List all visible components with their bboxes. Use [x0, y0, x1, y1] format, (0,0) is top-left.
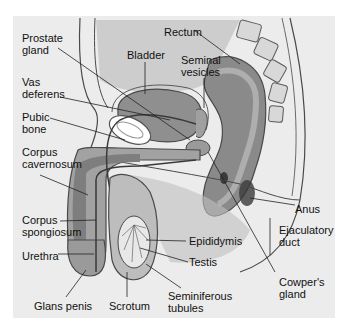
label-vas-deferens: Vas deferens	[22, 76, 65, 100]
label-glans-penis: Glans penis	[34, 300, 92, 312]
label-line: Corpus	[22, 214, 81, 226]
label-bladder: Bladder	[127, 49, 165, 61]
label-line: cavernosum	[22, 158, 82, 170]
label-line: Seminiferous	[168, 290, 232, 302]
glans	[68, 240, 106, 276]
label-line: Testis	[189, 256, 217, 268]
label-line: Vas	[22, 76, 65, 88]
label-corpus-spongiosum: Corpus spongiosum	[22, 214, 81, 238]
anal-sphincter	[239, 180, 255, 206]
label-line: Corpus	[22, 146, 82, 158]
label-ejaculatory-duct: Ejaculatory duct	[279, 224, 333, 248]
label-line: Epididymis	[189, 235, 242, 247]
label-anus: Anus	[295, 203, 320, 215]
cowpers-gland-shape	[220, 172, 228, 184]
label-line: Glans penis	[34, 300, 92, 312]
label-line: deferens	[22, 88, 65, 100]
label-line: Scrotum	[109, 300, 150, 312]
label-line: Cowper's	[279, 276, 325, 288]
label-line: gland	[279, 288, 325, 300]
label-seminiferous-tubules: Seminiferous tubules	[168, 290, 232, 314]
label-line: Anus	[295, 203, 320, 215]
label-line: Prostate	[22, 32, 63, 44]
label-line: Pubic	[22, 111, 50, 123]
label-line: Urethra	[22, 250, 59, 262]
testis-shape	[118, 216, 150, 268]
label-prostate-gland: Prostate gland	[22, 32, 63, 56]
label-pubic-bone: Pubic bone	[22, 111, 50, 135]
label-line: vesicles	[181, 66, 221, 78]
label-epididymis: Epididymis	[189, 235, 242, 247]
label-cowpers-gland: Cowper's gland	[279, 276, 325, 300]
label-seminal-vesicles: Seminal vesicles	[181, 54, 221, 78]
label-line: Ejaculatory	[279, 224, 333, 236]
label-line: tubules	[168, 302, 232, 314]
label-urethra: Urethra	[22, 250, 59, 262]
label-rectum: Rectum	[164, 26, 202, 38]
label-line: Bladder	[127, 49, 165, 61]
label-line: gland	[22, 44, 63, 56]
label-testis: Testis	[189, 256, 217, 268]
seminal-vesicles	[196, 109, 207, 137]
label-line: duct	[279, 236, 333, 248]
label-line: Seminal	[181, 54, 221, 66]
label-line: Rectum	[164, 26, 202, 38]
label-corpus-cavernosum: Corpus cavernosum	[22, 146, 82, 170]
label-line: bone	[22, 123, 50, 135]
label-line: spongiosum	[22, 226, 81, 238]
label-scrotum: Scrotum	[109, 300, 150, 312]
